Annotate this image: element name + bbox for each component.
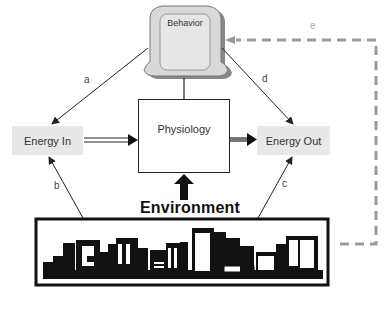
edge-b-label: b bbox=[54, 180, 60, 191]
environment-to-physiology-arrow bbox=[174, 174, 194, 200]
physiology-node: Physiology bbox=[138, 99, 230, 173]
behavior-node-shape bbox=[144, 6, 232, 79]
energy-out-label: Energy Out bbox=[266, 135, 322, 147]
edge-e-label: e bbox=[310, 20, 316, 31]
energy-in-to-physiology-arrow bbox=[84, 134, 138, 146]
energy-out-node: Energy Out bbox=[257, 126, 330, 155]
behavior-node-label: Behavior bbox=[160, 18, 210, 28]
edge-a-label: a bbox=[84, 74, 90, 85]
energy-in-label: Energy In bbox=[24, 135, 71, 147]
environment-label: Environment bbox=[140, 199, 240, 217]
physiology-label: Physiology bbox=[157, 123, 210, 135]
edge-d-arrow bbox=[222, 48, 293, 124]
edge-a-arrow bbox=[52, 48, 148, 124]
physiology-to-energy-out-arrow bbox=[230, 133, 257, 146]
edge-d-label: d bbox=[262, 73, 268, 84]
edge-c-label: c bbox=[282, 178, 287, 189]
energy-in-node: Energy In bbox=[12, 126, 83, 155]
